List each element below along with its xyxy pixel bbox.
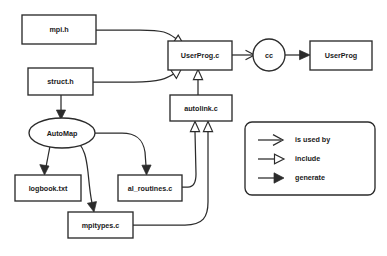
node-label: logbook.txt — [29, 184, 68, 193]
arrowhead-solid-triangle — [40, 165, 49, 175]
edge-automap-to-logbook_txt — [40, 146, 50, 175]
node-label: UserProg.c — [181, 51, 219, 60]
node-userprog[interactable]: UserProg — [310, 41, 372, 70]
edge-line — [182, 132, 196, 187]
legend-label: generate — [295, 173, 325, 182]
node-label: autolink.c — [184, 104, 218, 113]
node-label: cc — [265, 51, 273, 60]
edge-struct_h-to-automap — [56, 95, 65, 120]
edge-line — [93, 73, 176, 83]
edge-automap-to-al_routines_c — [95, 133, 151, 175]
edge-al_routines_c-to-autolink_c — [182, 122, 200, 188]
edge-userprog_c-to-cc — [232, 50, 255, 59]
arrowhead-solid-triangle — [87, 202, 96, 212]
node-label: al_routines.c — [128, 184, 172, 193]
node-label: AutoMap — [47, 129, 78, 138]
edge-cc-to-userprog — [285, 50, 310, 59]
node-label: mpi.h — [49, 25, 68, 34]
node-mpi-h[interactable]: mpi.h — [22, 15, 96, 44]
node-label: UserProg — [325, 51, 357, 60]
arrowhead-solid-triangle — [142, 165, 151, 175]
node-label: struct.h — [47, 77, 73, 86]
node-automap[interactable]: AutoMap — [29, 118, 95, 148]
arrowhead-hollow-triangle — [203, 122, 212, 132]
legend-label: include — [295, 154, 320, 163]
flow-diagram: mpi.h struct.h UserProg.c cc UserProg au… — [0, 0, 387, 256]
node-al-routines-c[interactable]: al_routines.c — [118, 175, 182, 201]
node-autolink-c[interactable]: autolink.c — [170, 95, 232, 121]
node-logbook-txt[interactable]: logbook.txt — [15, 175, 81, 201]
edge-line — [96, 30, 178, 40]
edge-line — [46, 146, 50, 167]
edge-mpitypes_c-to-autolink_c — [133, 122, 213, 226]
node-struct-h[interactable]: struct.h — [28, 68, 93, 95]
arrowhead-hollow-triangle — [193, 70, 202, 80]
legend: is used by include generate — [245, 122, 375, 195]
edge-line — [95, 133, 146, 166]
node-label: mpitypes.c — [82, 221, 120, 230]
edge-autolink_c-to-userprog_c — [193, 70, 202, 96]
node-cc[interactable]: cc — [253, 39, 285, 71]
arrowhead-solid-triangle — [300, 50, 311, 59]
diagram-canvas: mpi.h struct.h UserProg.c cc UserProg au… — [0, 0, 387, 256]
arrowhead-hollow-triangle — [190, 122, 199, 132]
node-userprog-c[interactable]: UserProg.c — [168, 41, 232, 70]
node-mpitypes-c[interactable]: mpitypes.c — [68, 212, 133, 238]
legend-label: is used by — [295, 135, 330, 144]
